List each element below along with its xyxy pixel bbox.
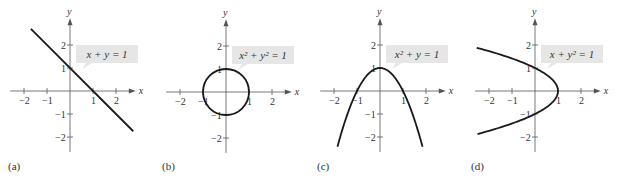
svg-text:2: 2 <box>424 95 429 106</box>
graph-panel-c: xy−2−11221−1−2x² + y = 1 <box>320 6 454 152</box>
svg-text:2: 2 <box>270 96 275 107</box>
svg-text:−2: −2 <box>484 95 495 106</box>
svg-text:−1: −1 <box>365 109 376 120</box>
x-axis-arrow-icon <box>439 89 446 94</box>
x-axis-arrow-icon <box>594 89 601 94</box>
svg-text:2: 2 <box>371 40 376 51</box>
y-axis-arrow-icon <box>378 18 383 25</box>
axes: xy−2−11221−1−2 <box>475 6 609 152</box>
equation-label: x² + y = 1 <box>386 45 448 69</box>
svg-text:−2: −2 <box>520 132 531 143</box>
svg-text:y: y <box>66 6 72 17</box>
svg-text:x: x <box>603 85 609 96</box>
svg-text:−1: −1 <box>42 95 53 106</box>
axes: xy−2−11221−1−2 <box>166 7 300 153</box>
panel-label-b: (b) <box>162 160 175 172</box>
svg-text:2: 2 <box>217 41 222 52</box>
graphs-svg: xy−2−11221−1−2x + y = 1xy−2−11221−1−2x² … <box>0 0 624 182</box>
svg-text:x² + y² = 1: x² + y² = 1 <box>238 49 287 61</box>
svg-text:2: 2 <box>526 40 531 51</box>
figure: xy−2−11221−1−2x + y = 1xy−2−11221−1−2x² … <box>0 0 624 182</box>
axes: xy−2−11221−1−2 <box>320 6 454 152</box>
svg-text:−2: −2 <box>175 96 186 107</box>
svg-text:y: y <box>531 6 537 17</box>
graph-panel-a: xy−2−11221−1−2x + y = 1 <box>10 6 144 152</box>
svg-text:x + y² = 1: x + y² = 1 <box>549 48 594 60</box>
panel-label-c: (c) <box>317 160 329 172</box>
graph-panel-b: xy−2−11221−1−2x² + y² = 1 <box>166 7 300 153</box>
svg-text:−2: −2 <box>19 95 30 106</box>
svg-text:−1: −1 <box>55 109 66 120</box>
curve <box>31 29 133 131</box>
panel-label-d: (d) <box>471 160 484 172</box>
y-axis-arrow-icon <box>68 18 73 25</box>
svg-text:−2: −2 <box>55 132 66 143</box>
equation-label: x + y = 1 <box>76 45 138 69</box>
svg-text:−2: −2 <box>211 133 222 144</box>
panel-label-a: (a) <box>8 160 20 172</box>
svg-text:y: y <box>376 6 382 17</box>
svg-text:2: 2 <box>61 40 66 51</box>
graph-panel-d: xy−2−11221−1−2x + y² = 1 <box>475 6 609 152</box>
equation-label: x + y² = 1 <box>541 45 603 69</box>
y-axis-arrow-icon <box>224 19 229 26</box>
equation-label: x² + y² = 1 <box>232 46 294 70</box>
svg-text:x: x <box>294 86 300 97</box>
x-axis-arrow-icon <box>285 90 292 95</box>
y-axis-arrow-icon <box>533 18 538 25</box>
svg-text:−2: −2 <box>329 95 340 106</box>
svg-text:2: 2 <box>114 95 119 106</box>
svg-text:−2: −2 <box>365 132 376 143</box>
x-axis-arrow-icon <box>129 89 136 94</box>
svg-text:x² + y = 1: x² + y = 1 <box>394 48 439 60</box>
svg-text:x: x <box>448 85 454 96</box>
svg-text:y: y <box>222 7 228 18</box>
svg-text:1: 1 <box>91 95 96 106</box>
axes: xy−2−11221−1−2 <box>10 6 144 152</box>
svg-text:x: x <box>138 85 144 96</box>
svg-text:x + y = 1: x + y = 1 <box>85 48 127 60</box>
svg-text:2: 2 <box>579 95 584 106</box>
svg-text:−1: −1 <box>507 95 518 106</box>
